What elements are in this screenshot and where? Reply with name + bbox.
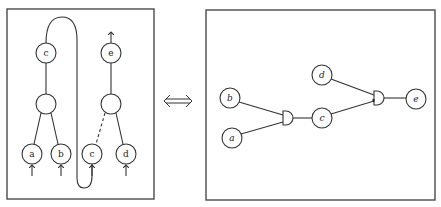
node-label: c [319, 113, 324, 123]
gate-input-marker [373, 99, 375, 102]
diagram-canvas: c e a b c d [0, 0, 441, 207]
left-panel-frame [7, 9, 154, 199]
node-d: d [116, 144, 136, 164]
edge-join-left-to-b [51, 113, 58, 144]
and-gate-2-icon [374, 91, 384, 105]
node-e-top: e [101, 43, 121, 63]
right-panel: b a c d e [206, 10, 435, 200]
node-label: e [108, 48, 113, 58]
node-label: e [413, 94, 418, 104]
node-c: c [312, 108, 332, 128]
node-join-left [36, 94, 56, 114]
left-panel: c e a b c d [7, 9, 154, 199]
edge-join-right-to-d [116, 113, 123, 144]
node-label: b [58, 149, 64, 159]
node-c-top: c [36, 43, 56, 63]
node-label: d [123, 149, 129, 159]
node-b: b [220, 88, 240, 108]
node-label: b [227, 93, 233, 103]
node-label: a [229, 133, 234, 143]
dashed-edge-join-right-to-c [96, 113, 105, 144]
and-gate-1-icon [283, 111, 293, 125]
node-b: b [51, 144, 71, 164]
edge-c-to-gate2 [331, 101, 374, 114]
edge-a-to-gate1 [241, 122, 283, 134]
right-panel-frame [206, 10, 435, 200]
node-label: c [43, 48, 48, 58]
edge-join-left-to-a [34, 113, 41, 144]
node-d: d [312, 65, 332, 85]
edge-d-to-gate2 [331, 79, 374, 95]
node-e: e [406, 89, 426, 109]
node-a: a [22, 144, 42, 164]
node-label: a [29, 149, 35, 159]
equivalence-arrow-icon [164, 95, 192, 107]
node-label: c [89, 149, 94, 159]
node-label: d [319, 70, 325, 80]
edge-b-to-gate1 [239, 102, 283, 115]
node-a: a [222, 128, 242, 148]
node-join-right [101, 94, 121, 114]
node-c-bottom: c [82, 144, 102, 164]
